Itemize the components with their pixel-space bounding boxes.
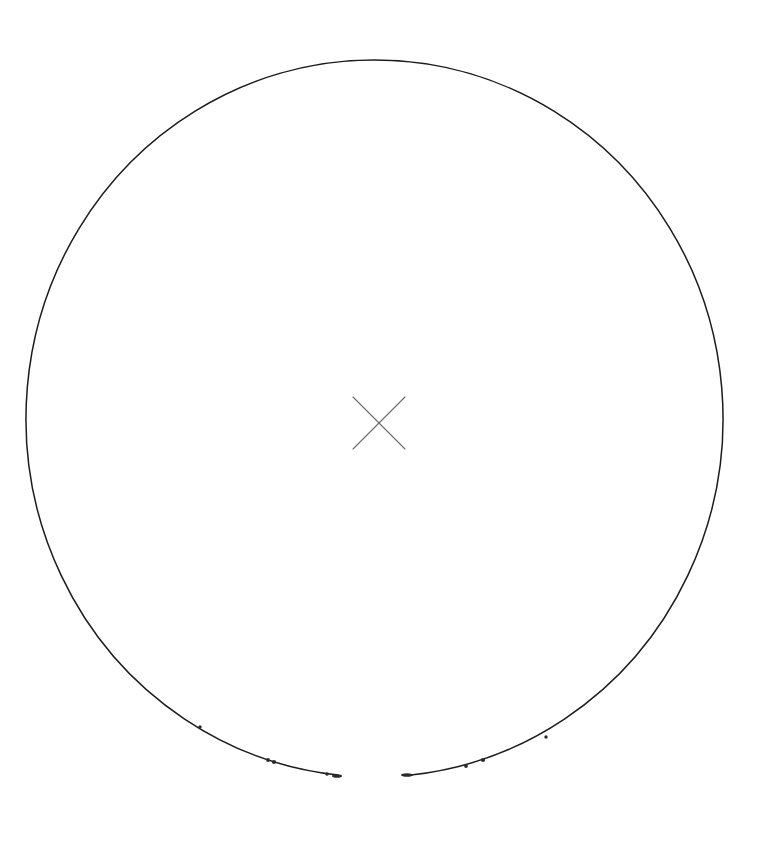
arc-tick-mark xyxy=(464,764,468,768)
figure-canvas xyxy=(0,0,764,845)
arc-tick-mark xyxy=(198,725,201,728)
arc-tick-mark xyxy=(544,735,547,738)
arc-tick-mark xyxy=(272,760,276,764)
arc-tick-mark xyxy=(332,774,342,778)
figure-plot-area xyxy=(0,0,764,845)
arc-tick-mark xyxy=(481,758,485,762)
arc-tick-mark xyxy=(401,773,413,777)
arc-tick-mark xyxy=(266,758,270,762)
arc-tick-mark xyxy=(325,772,329,776)
plot-background xyxy=(0,0,764,845)
